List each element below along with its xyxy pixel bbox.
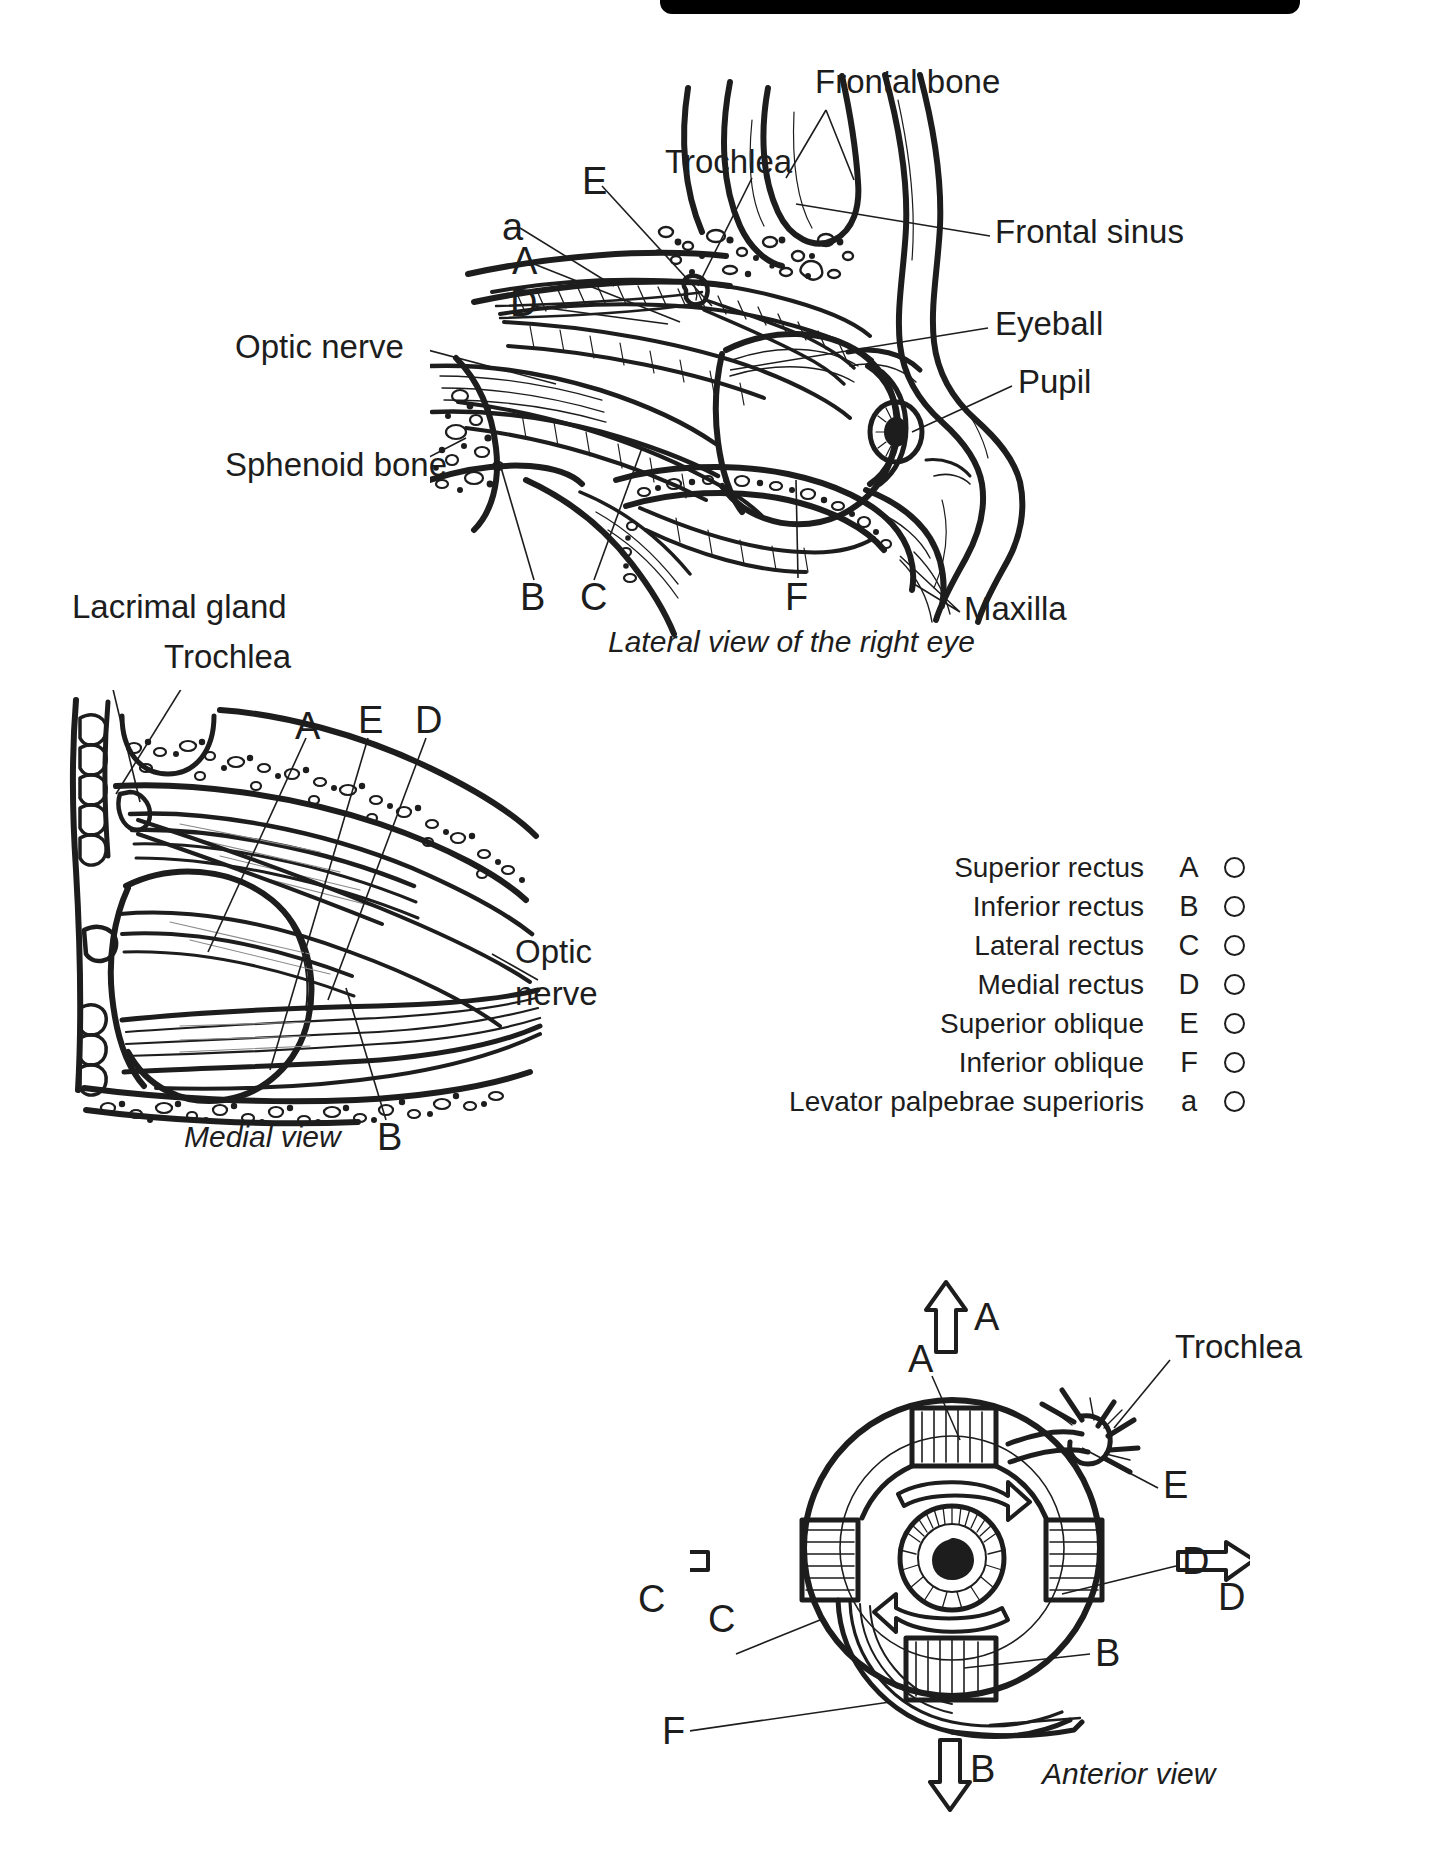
label-letter-f-lateral: F (785, 578, 808, 616)
lateral-view-drawing (430, 60, 1190, 640)
label-letter-d-lateral: D (510, 284, 537, 322)
label-letter-f-anterior: F (662, 1712, 685, 1750)
figure-medial-view: Lacrimal gland Trochlea A E D Optic nerv… (60, 690, 580, 1160)
key-muscle-letter: C (1170, 929, 1208, 962)
key-muscle-name: Inferior oblique (700, 1047, 1170, 1079)
key-muscle-letter: a (1170, 1085, 1208, 1118)
label-trochlea-lateral: Trochlea (665, 145, 792, 178)
label-trochlea-medial: Trochlea (164, 640, 291, 673)
label-letter-a-lateral: A (512, 242, 537, 280)
label-pupil: Pupil (1018, 365, 1091, 398)
key-answer-bubble[interactable] (1208, 1052, 1260, 1073)
label-letter-e-lateral: E (582, 162, 607, 200)
label-letter-e-anterior: E (1163, 1466, 1188, 1504)
label-letter-b-medial: B (377, 1118, 402, 1156)
key-answer-bubble[interactable] (1208, 1091, 1260, 1112)
bubble-circle-icon[interactable] (1224, 1091, 1245, 1112)
caption-anterior-view: Anterior view (1042, 1757, 1215, 1791)
key-answer-bubble[interactable] (1208, 896, 1260, 917)
key-muscle-letter: D (1170, 968, 1208, 1001)
key-muscle-letter: A (1170, 851, 1208, 884)
bubble-circle-icon[interactable] (1224, 1052, 1245, 1073)
key-muscle-letter: F (1170, 1046, 1208, 1079)
anatomy-diagram-page: Frontal bone Trochlea Frontal sinus Eyeb… (0, 0, 1446, 1855)
key-answer-bubble[interactable] (1208, 1013, 1260, 1034)
bubble-circle-icon[interactable] (1224, 974, 1245, 995)
key-answer-bubble[interactable] (1208, 935, 1260, 956)
label-letter-b-lateral: B (520, 578, 545, 616)
key-answer-bubble[interactable] (1208, 857, 1260, 878)
muscle-key-legend: Superior rectus A Inferior rectus B Late… (700, 848, 1260, 1121)
figure-lateral-view: Frontal bone Trochlea Frontal sinus Eyeb… (430, 60, 1190, 640)
key-row[interactable]: Inferior oblique F (700, 1043, 1260, 1082)
bubble-circle-icon[interactable] (1224, 857, 1245, 878)
arrow-down-b (930, 1740, 970, 1810)
label-letter-a-medial: A (295, 707, 320, 745)
key-muscle-letter: B (1170, 890, 1208, 923)
key-muscle-letter: E (1170, 1007, 1208, 1040)
label-optic-nerve-medial-line1: Optic (515, 935, 592, 968)
top-black-tab (660, 0, 1300, 14)
label-letter-a-anterior: A (908, 1340, 933, 1378)
label-optic-nerve-medial-line2: nerve (515, 977, 598, 1010)
caption-lateral-view: Lateral view of the right eye (608, 625, 975, 659)
key-row[interactable]: Superior rectus A (700, 848, 1260, 887)
label-arrow-d-anterior: D (1218, 1578, 1245, 1616)
key-muscle-name: Levator palpebrae superioris (700, 1086, 1170, 1118)
key-row[interactable]: Levator palpebrae superioris a (700, 1082, 1260, 1121)
label-lacrimal-gland: Lacrimal gland (72, 590, 287, 623)
label-eyeball: Eyeball (995, 307, 1103, 340)
medial-view-drawing (60, 690, 580, 1160)
key-muscle-name: Inferior rectus (700, 891, 1170, 923)
key-row[interactable]: Lateral rectus C (700, 926, 1260, 965)
label-frontal-bone: Frontal bone (815, 65, 1000, 98)
label-frontal-sinus: Frontal sinus (995, 215, 1184, 248)
key-muscle-name: Medial rectus (700, 969, 1170, 1001)
caption-medial-view: Medial view (184, 1120, 341, 1154)
label-arrow-b-anterior: B (970, 1750, 995, 1788)
label-letter-c-anterior: C (708, 1600, 735, 1638)
label-letter-d-medial: D (415, 701, 442, 739)
label-maxilla: Maxilla (964, 592, 1067, 625)
label-letter-b-anterior: B (1095, 1634, 1120, 1672)
label-letter-e-medial: E (358, 701, 383, 739)
key-muscle-name: Superior rectus (700, 852, 1170, 884)
key-row[interactable]: Superior oblique E (700, 1004, 1260, 1043)
key-answer-bubble[interactable] (1208, 974, 1260, 995)
anterior-view-drawing (690, 1270, 1250, 1830)
key-row[interactable]: Inferior rectus B (700, 887, 1260, 926)
label-arrow-a-anterior: A (974, 1298, 999, 1336)
key-muscle-name: Superior oblique (700, 1008, 1170, 1040)
label-letter-c-lateral: C (580, 578, 607, 616)
label-trochlea-anterior: Trochlea (1175, 1330, 1302, 1363)
key-muscle-name: Lateral rectus (700, 930, 1170, 962)
label-letter-d-anterior: D (1182, 1542, 1209, 1580)
bubble-circle-icon[interactable] (1224, 896, 1245, 917)
bubble-circle-icon[interactable] (1224, 1013, 1245, 1034)
label-sphenoid-bone: Sphenoid bone (225, 448, 447, 481)
bubble-circle-icon[interactable] (1224, 935, 1245, 956)
label-arrow-c-anterior: C (638, 1580, 665, 1618)
key-row[interactable]: Medial rectus D (700, 965, 1260, 1004)
figure-anterior-view: A A Trochlea E D D C C B F B Anterior vi… (690, 1270, 1250, 1830)
label-optic-nerve-lateral: Optic nerve (235, 330, 404, 363)
arrow-left-c (690, 1542, 708, 1580)
